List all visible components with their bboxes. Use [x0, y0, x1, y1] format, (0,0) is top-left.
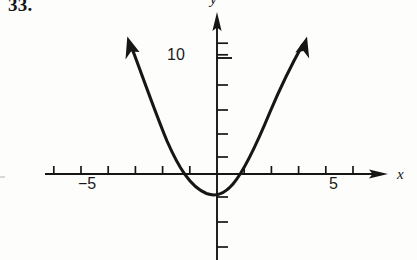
x-tick-label-minus-5: −5 [78, 175, 96, 193]
parabola-left-arrowhead [126, 37, 140, 60]
problem-number: 33. [8, 0, 32, 16]
y-tick-label-10: 10 [167, 46, 185, 64]
y-axis-ticks [217, 43, 232, 247]
page-edge-artifact [0, 176, 5, 178]
graph-figure: 33. [0, 0, 417, 260]
x-tick-label-5: 5 [329, 175, 338, 193]
x-axis-label: x [397, 166, 404, 183]
coordinate-plot [0, 0, 417, 260]
y-axis-label: y [210, 0, 217, 8]
x-axis-ticks [54, 166, 353, 174]
